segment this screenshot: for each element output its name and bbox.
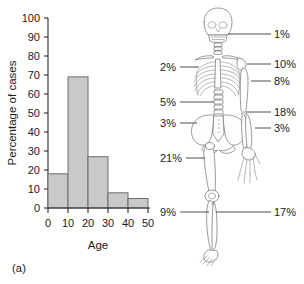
y-tick-label: 80	[28, 50, 40, 62]
y-tick-label: 50	[28, 107, 40, 119]
label-pelvis-3pct: 3%	[160, 117, 176, 129]
bar-20-30	[88, 157, 108, 208]
bar-chart-svg: 100 90 80 70 60 50 40 30 20 10 0	[0, 0, 152, 262]
label-hand-3pct: 3%	[274, 122, 290, 134]
panel-skeleton-diagram: 2% 5% 3% 21% 9% 1% 10% 8% 18% 3% 17% (b)	[152, 0, 304, 284]
x-tick-label: 20	[82, 217, 94, 229]
knee-joint	[205, 190, 219, 202]
percent-labels-left: 2% 5% 3% 21% 9%	[160, 61, 182, 218]
caption-panel-a: (a)	[12, 262, 26, 274]
y-axis-title: Percentage of cases	[6, 60, 18, 165]
y-tick-label: 30	[28, 145, 40, 157]
y-axis-ticks: 100 90 80 70 60 50 40 30 20 10 0	[22, 12, 40, 214]
x-tick-label: 30	[102, 217, 114, 229]
hand-bones	[238, 148, 260, 183]
skeleton-figure	[191, 8, 260, 266]
bar-40-50	[128, 199, 148, 209]
label-humerus-10pct: 10%	[274, 58, 296, 70]
left-arm-bones	[240, 68, 252, 149]
percent-labels-right: 1% 10% 8% 18% 3% 17%	[274, 28, 296, 218]
cervical-spine	[214, 43, 222, 54]
femur-bone	[204, 143, 216, 196]
label-tibia-9pct: 9%	[160, 206, 176, 218]
figure-container: 100 90 80 70 60 50 40 30 20 10 0	[0, 0, 304, 284]
bar-0-10	[48, 174, 68, 208]
y-tick-label: 40	[28, 126, 40, 138]
label-hip-18pct: 18%	[274, 106, 296, 118]
panel-bar-chart: 100 90 80 70 60 50 40 30 20 10 0	[0, 0, 152, 284]
label-spine-5pct: 5%	[160, 96, 176, 108]
label-ribs-2pct: 2%	[160, 61, 176, 73]
x-tick-label: 0	[45, 217, 51, 229]
x-tick-marks	[48, 208, 148, 213]
x-tick-label: 10	[62, 217, 74, 229]
y-tick-label: 60	[28, 88, 40, 100]
bar-30-40	[108, 193, 128, 208]
pelvis	[191, 115, 245, 154]
label-skull-1pct: 1%	[274, 28, 290, 40]
x-axis-title: Age	[88, 239, 108, 251]
y-tick-label: 100	[22, 12, 40, 24]
y-tick-label: 0	[34, 202, 40, 214]
label-radius-8pct: 8%	[274, 75, 290, 87]
label-femur-21pct: 21%	[160, 152, 182, 164]
skeleton-svg: 2% 5% 3% 21% 9% 1% 10% 8% 18% 3% 17%	[152, 0, 304, 262]
y-tick-label: 70	[28, 69, 40, 81]
x-axis-ticks: 0 10 20 30 40 50	[45, 217, 154, 229]
lower-leg-bones	[207, 200, 217, 250]
bars-group	[48, 77, 148, 208]
lumbar-spine	[214, 90, 223, 114]
label-fibula-17pct: 17%	[274, 206, 296, 218]
foot-bones	[200, 250, 218, 266]
y-tick-label: 90	[28, 31, 40, 43]
bar-10-20	[68, 77, 88, 208]
x-tick-label: 40	[122, 217, 134, 229]
y-tick-label: 20	[28, 164, 40, 176]
skull-icon	[204, 8, 232, 43]
y-tick-marks	[44, 18, 48, 208]
y-tick-label: 10	[28, 183, 40, 195]
